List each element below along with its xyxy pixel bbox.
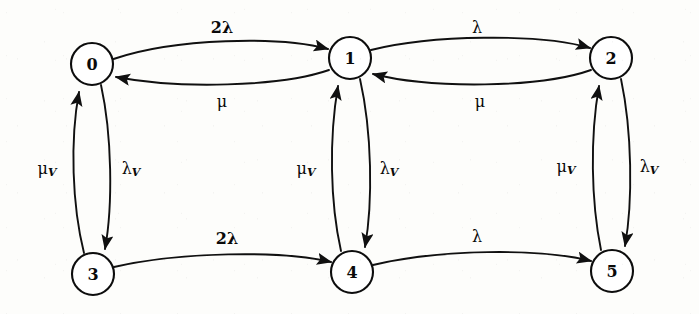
edge-label-4-to-1-subscript: V: [307, 166, 317, 179]
edge-label-1-to-4-symbol: λ: [380, 159, 390, 178]
node-4[interactable]: 4: [331, 251, 373, 293]
diagram-canvas: 0 1 2 3 4 5 2λ μ λ μ μV λV: [0, 0, 699, 314]
edge-label-5-to-2-symbol: μ: [557, 157, 567, 176]
edge-label-5-to-2: μV: [557, 157, 577, 177]
node-label-5: 5: [606, 262, 617, 281]
edge-label-1-to-4-subscript: V: [390, 166, 400, 179]
edge-label-1-to-4: λV: [380, 159, 400, 179]
node-label-4: 4: [346, 263, 357, 282]
edge-label-2-to-5: λV: [640, 157, 660, 177]
edge-label-0-to-3: λV: [122, 159, 142, 179]
edge-2-to-1: [373, 70, 591, 84]
edge-label-1-to-2: λ: [472, 18, 482, 37]
node-label-1: 1: [344, 49, 355, 68]
edge-label-2-to-5-subscript: V: [650, 164, 660, 177]
node-5[interactable]: 5: [591, 250, 633, 292]
node-3[interactable]: 3: [72, 253, 114, 295]
node-2[interactable]: 2: [590, 37, 632, 79]
node-label-2: 2: [605, 49, 616, 68]
edge-label-0-to-3-subscript: V: [132, 166, 142, 179]
edge-label-4-to-5: λ: [472, 227, 482, 246]
edge-4-to-1: [332, 86, 341, 251]
edge-label-0-to-1: 2λ: [211, 18, 233, 37]
edge-2-to-5: [621, 79, 630, 246]
edge-label-0-to-3-symbol: λ: [122, 159, 132, 178]
edge-3-to-0: [73, 92, 84, 253]
edge-label-2-to-5-symbol: λ: [640, 157, 650, 176]
node-1[interactable]: 1: [329, 37, 371, 79]
node-label-0: 0: [86, 55, 97, 74]
edge-label-3-to-0-symbol: μ: [38, 159, 48, 178]
node-0[interactable]: 0: [71, 43, 113, 85]
node-label-3: 3: [87, 265, 98, 284]
edge-label-3-to-4: 2λ: [216, 229, 238, 248]
edge-0-to-1: [114, 41, 329, 59]
edge-3-to-4: [114, 254, 331, 267]
edge-label-2-to-1: μ: [475, 92, 485, 111]
markov-chain-diagram: 0 1 2 3 4 5 2λ μ λ μ μV λV: [0, 0, 699, 314]
edge-4-to-5: [373, 252, 591, 265]
edge-5-to-2: [593, 86, 601, 250]
edge-label-1-to-0: μ: [217, 92, 227, 111]
edge-1-to-4: [360, 79, 370, 247]
edge-label-4-to-1-symbol: μ: [297, 159, 307, 178]
edge-label-5-to-2-subscript: V: [567, 164, 577, 177]
edge-label-4-to-1: μV: [297, 159, 317, 179]
edge-label-3-to-0: μV: [38, 159, 58, 179]
edge-1-to-2: [371, 38, 590, 50]
edge-1-to-0: [116, 70, 329, 85]
edge-label-3-to-0-subscript: V: [48, 166, 58, 179]
edge-0-to-3: [101, 85, 110, 249]
